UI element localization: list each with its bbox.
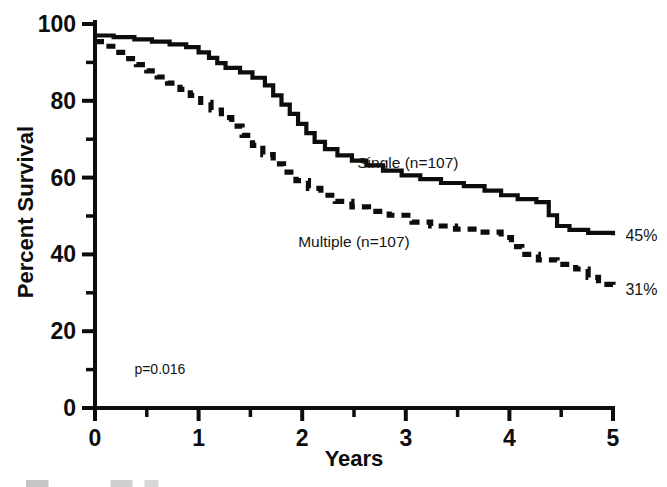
x-tick-label: 3	[399, 425, 412, 451]
cropped-caption-fragment	[26, 480, 356, 487]
x-tick-label: 2	[296, 425, 309, 451]
x-tick-label: 0	[89, 425, 102, 451]
y-tick-label: 60	[50, 165, 76, 191]
y-tick-label: 0	[63, 395, 76, 421]
x-axis-title: Years	[325, 446, 384, 471]
y-tick-label: 80	[50, 88, 76, 114]
y-tick-label: 40	[50, 241, 76, 267]
endpoint-label-single: 45%	[625, 227, 657, 244]
x-tick-label: 1	[192, 425, 205, 451]
x-tick-label: 4	[503, 425, 516, 451]
y-axis-tick-labels: 020406080100	[38, 11, 76, 421]
x-tick-label: 5	[607, 425, 620, 451]
y-tick-label: 100	[38, 11, 76, 37]
y-axis-title: Percent Survival	[13, 126, 38, 298]
plot-canvas: 020406080100 012345 Single (n=107) Multi…	[0, 0, 667, 487]
series-label-single: Single (n=107)	[357, 154, 458, 171]
endpoint-label-multiple: 31%	[625, 281, 657, 298]
series-label-multiple: Multiple (n=107)	[298, 233, 410, 250]
y-tick-label: 20	[50, 318, 76, 344]
survival-curve-multiple	[95, 42, 613, 289]
survival-chart-figure: 020406080100 012345 Single (n=107) Multi…	[0, 0, 667, 487]
p-value-annotation: p=0.016	[134, 361, 185, 377]
